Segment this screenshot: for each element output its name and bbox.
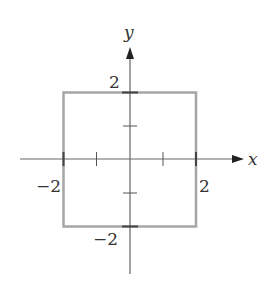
coordinate-diagram: y x 2 −2 2 −2 <box>0 0 270 285</box>
x-tick-label-pos2: 2 <box>199 176 210 196</box>
y-tick-label-pos2: 2 <box>109 72 120 92</box>
y-tick-label-neg2: −2 <box>93 229 118 249</box>
y-axis-arrow-icon <box>126 47 134 59</box>
x-axis-label: x <box>248 149 258 169</box>
x-axis-arrow-icon <box>232 155 244 163</box>
y-axis-label: y <box>123 22 134 42</box>
x-tick-label-neg2: −2 <box>36 176 61 196</box>
